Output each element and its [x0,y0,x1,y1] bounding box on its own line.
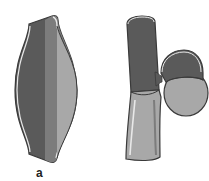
panel-a: a [0,0,104,181]
panel-b: b [104,0,209,181]
panel-label-a: a [36,166,43,180]
fusiform-vessel-illustration [0,0,104,181]
saccular-vessel-illustration [104,0,209,181]
